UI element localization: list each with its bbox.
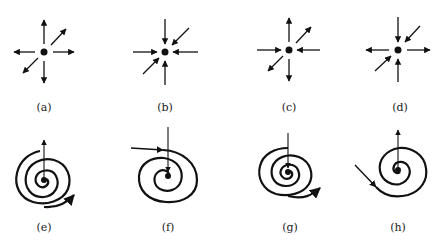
panel-label-g: (g) bbox=[270, 221, 310, 234]
panel-d-mixed bbox=[366, 17, 430, 82]
arrow-downleft-icon bbox=[143, 58, 159, 74]
spiral-entry-arrow bbox=[131, 148, 163, 150]
panel-e-spiral bbox=[16, 140, 74, 207]
panel-label-c: (c) bbox=[269, 101, 309, 114]
panel-label-h: (h) bbox=[378, 221, 418, 234]
arrow-upright-icon bbox=[172, 28, 189, 45]
panel-label-e: (e) bbox=[24, 221, 64, 234]
fixed-point-dot bbox=[165, 173, 171, 179]
arrow-upright-icon bbox=[405, 26, 420, 42]
panel-g-spiral bbox=[259, 133, 320, 197]
fixed-point-dot bbox=[395, 47, 402, 54]
panel-c-mixed bbox=[257, 18, 320, 81]
panel-h-spiral bbox=[355, 130, 426, 196]
panel-f-spiral bbox=[131, 127, 197, 202]
arrow-upright-icon bbox=[296, 27, 311, 43]
fixed-point-dot bbox=[285, 169, 291, 175]
panel-label-f: (f) bbox=[148, 221, 188, 234]
fixed-point-dot bbox=[162, 49, 169, 56]
fixed-point-dot bbox=[286, 47, 293, 54]
arrow-upright-icon bbox=[51, 29, 66, 45]
panel-label-a: (a) bbox=[24, 101, 64, 114]
spiral-entry-arrow bbox=[355, 165, 376, 187]
fixed-point-dot bbox=[41, 49, 48, 56]
panel-b-node-inward bbox=[133, 19, 198, 85]
panel-a-node-outward bbox=[14, 20, 74, 83]
panel-label-d: (d) bbox=[380, 101, 420, 114]
arrow-downleft-icon bbox=[23, 58, 38, 73]
arrow-downleft-icon bbox=[375, 56, 391, 71]
panel-label-b: (b) bbox=[145, 101, 185, 114]
spiral-curve bbox=[376, 148, 426, 196]
phase-portrait-figure bbox=[0, 0, 442, 242]
arrow-downleft-icon bbox=[268, 56, 283, 71]
spiral-curve bbox=[16, 151, 69, 203]
